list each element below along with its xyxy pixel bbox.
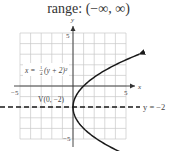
tick-label-x-neg5: −5	[11, 89, 19, 97]
equation-label: x = 1 4 (y + 2)²	[23, 63, 69, 76]
equation-rhs: (y + 2)²	[44, 66, 68, 75]
graph: x y −5 5 5 −5 y = −2 V(0, −2) x = 1 4 (y…	[0, 0, 177, 151]
vertex-label: V(0, −2)	[38, 95, 64, 104]
symmetry-label: y = −2	[143, 102, 165, 112]
tick-label-x-pos5: 5	[124, 89, 128, 97]
x-axis-label: x	[137, 83, 142, 91]
tick-label-y-pos5: 5	[66, 32, 70, 40]
equation-lhs: x =	[24, 66, 35, 75]
y-axis-label: y	[70, 16, 75, 24]
equation-frac-num: 1	[40, 65, 42, 70]
tick-label-y-neg5: −5	[63, 135, 71, 143]
